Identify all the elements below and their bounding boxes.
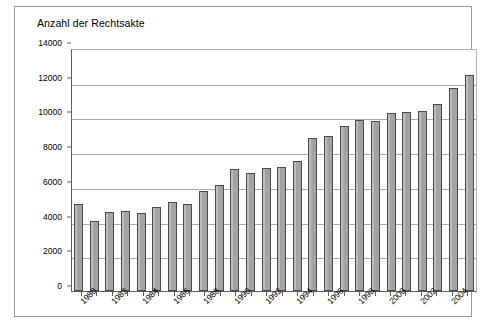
bar [308, 138, 317, 291]
y-axis: 14000120001000080006000400020000 [15, 7, 71, 316]
bar [246, 173, 255, 291]
bar [433, 104, 442, 291]
bar [418, 111, 427, 292]
bar [105, 212, 114, 291]
bar [199, 191, 208, 291]
bar [465, 75, 474, 291]
y-axis-tick-label: 8000 [43, 142, 62, 152]
bar-series [72, 50, 476, 291]
bar [355, 120, 364, 291]
bar [152, 207, 161, 291]
plot-area [71, 49, 477, 292]
y-axis-tick-label: 10000 [38, 107, 62, 117]
y-axis-tick-label: 2000 [43, 246, 62, 256]
y-axis-tick-label: 0 [57, 281, 62, 291]
bar [293, 161, 302, 291]
bar [324, 136, 333, 291]
bar [402, 112, 411, 291]
y-axis-tick-label: 6000 [43, 177, 62, 187]
bar [168, 202, 177, 291]
bar [74, 204, 83, 291]
y-axis-tick [67, 43, 71, 44]
bar [90, 221, 99, 291]
bar [121, 211, 130, 291]
bar [215, 185, 224, 291]
y-axis-tick-label: 4000 [43, 212, 62, 222]
bar [262, 168, 271, 291]
bar [340, 126, 349, 291]
bar [137, 213, 146, 291]
bar [230, 169, 239, 291]
bar [371, 121, 380, 291]
bar [277, 167, 286, 291]
bar [387, 113, 396, 291]
y-axis-tick-label: 12000 [38, 73, 62, 83]
x-axis-labels: 1980198219841986198819901992199419961998… [71, 295, 487, 329]
bar [183, 204, 192, 291]
chart-frame: Anzahl der Rechtsakte 140001200010000800… [14, 6, 472, 317]
y-axis-tick-label: 14000 [38, 38, 62, 48]
bar [449, 88, 458, 291]
